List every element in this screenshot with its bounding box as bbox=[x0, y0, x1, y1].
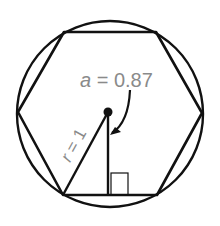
apothem-arrow bbox=[112, 90, 130, 133]
arrowhead-icon bbox=[110, 127, 121, 135]
apothem-label: a = 0.87 bbox=[80, 69, 153, 91]
apothem-var: a bbox=[80, 69, 91, 91]
center-point bbox=[104, 108, 113, 117]
apothem-eq: = bbox=[91, 69, 114, 91]
hexagon-diagram: a = 0.87 r = 1 bbox=[0, 0, 220, 226]
apothem-value: 0.87 bbox=[114, 69, 153, 91]
radius-label: r = 1 bbox=[57, 126, 90, 165]
right-angle-marker bbox=[111, 173, 128, 195]
